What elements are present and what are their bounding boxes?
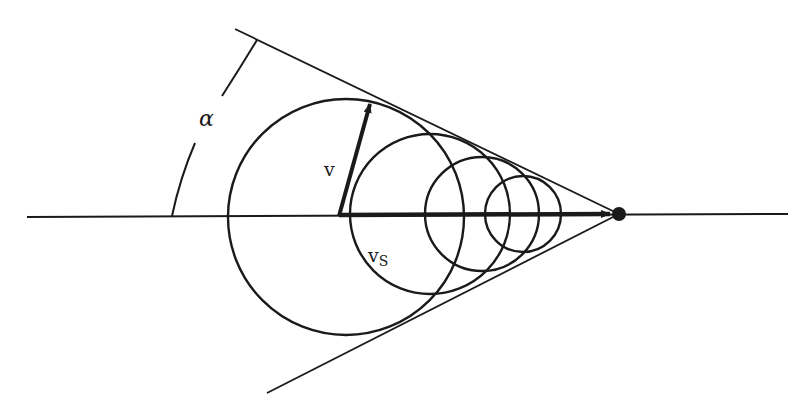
mach-cone-diagram: α v vS: [0, 0, 801, 414]
sound-speed-vector: [339, 104, 370, 216]
cone-lower-line: [267, 214, 619, 393]
alpha-label: α: [199, 106, 214, 131]
source-point: [612, 207, 626, 221]
vs-label: vS: [367, 244, 388, 269]
vs-main: v: [367, 244, 379, 266]
v-label: v: [323, 158, 335, 180]
vs-subscript: S: [379, 253, 389, 269]
source-velocity-vector: [339, 214, 610, 215]
cone-upper-line: [235, 29, 619, 214]
angle-arc-upper: [222, 40, 257, 96]
angle-arc-lower: [172, 143, 195, 216]
